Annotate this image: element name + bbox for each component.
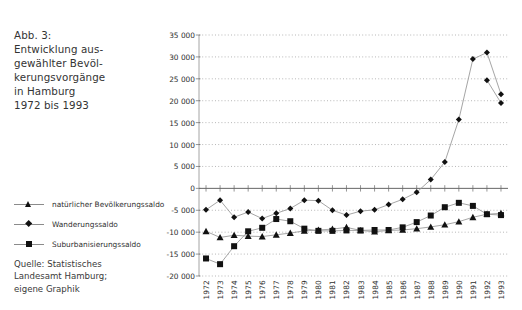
x-axis-tick-label: 1974 bbox=[230, 280, 239, 300]
source-line: Quelle: Statistisches bbox=[14, 258, 164, 270]
y-axis-tick-label: 35 000 bbox=[155, 31, 195, 40]
data-point-marker bbox=[456, 117, 462, 123]
y-axis-tick-label: 25 000 bbox=[155, 74, 195, 83]
y-axis-tick-label: 10 000 bbox=[155, 140, 195, 149]
data-point-marker bbox=[217, 261, 223, 267]
legend-item-suburbanisierungssaldo: Suburbanisierungssaldo bbox=[14, 234, 164, 254]
x-axis-tick-label: 1979 bbox=[300, 280, 309, 300]
legend-item-wanderungssaldo: Wanderungssaldo bbox=[14, 214, 164, 234]
caption-line: Abb. 3: bbox=[14, 28, 162, 42]
x-axis-tick-label: 1989 bbox=[441, 280, 450, 300]
x-axis-tick-label: 1984 bbox=[371, 280, 380, 300]
data-point-marker bbox=[301, 197, 307, 203]
caption-line: kerungsvorgänge bbox=[14, 70, 162, 84]
data-point-marker bbox=[259, 216, 265, 222]
series-line bbox=[487, 80, 501, 103]
legend-label: Suburbanisierungssaldo bbox=[52, 240, 141, 249]
x-axis-tick-label: 1983 bbox=[357, 280, 366, 300]
y-axis-tick-label: 20 000 bbox=[155, 96, 195, 105]
data-point-marker bbox=[386, 202, 392, 208]
y-axis-tick-label: 30 000 bbox=[155, 52, 195, 61]
data-point-marker bbox=[203, 228, 210, 234]
caption-line: gewählter Bevöl- bbox=[14, 56, 162, 70]
data-point-marker bbox=[343, 212, 349, 218]
x-axis-tick-label: 1975 bbox=[244, 280, 253, 300]
square-marker-icon bbox=[26, 241, 32, 247]
source-note: Quelle: Statistisches Landesamt Hamburg;… bbox=[14, 258, 164, 295]
data-point-marker bbox=[456, 200, 462, 206]
x-axis-tick-label: 1977 bbox=[272, 280, 281, 300]
data-point-marker bbox=[414, 219, 420, 225]
legend-swatch-line bbox=[14, 240, 44, 249]
x-axis-tick-label: 1993 bbox=[497, 280, 506, 300]
data-point-marker bbox=[442, 204, 448, 210]
line-chart: 35 00030 00025 00020 00015 00010 0005 00… bbox=[169, 22, 514, 307]
data-point-marker bbox=[301, 226, 307, 232]
legend-swatch-line bbox=[14, 220, 44, 229]
y-axis-tick-label: 0 bbox=[155, 184, 195, 193]
data-point-marker bbox=[273, 216, 279, 222]
data-point-marker bbox=[372, 207, 378, 213]
y-axis-tick-label: -5 000 bbox=[155, 206, 195, 215]
data-point-marker bbox=[329, 207, 335, 213]
x-axis-tick-label: 1988 bbox=[427, 280, 436, 300]
x-axis-tick-label: 1976 bbox=[258, 280, 267, 300]
data-point-marker bbox=[498, 91, 504, 97]
x-axis-tick-label: 1978 bbox=[286, 280, 295, 300]
x-axis-tick-label: 1992 bbox=[483, 280, 492, 300]
y-axis-tick-label: -20 000 bbox=[155, 272, 195, 281]
source-line: eigene Graphik bbox=[14, 283, 164, 295]
data-point-marker bbox=[315, 198, 321, 204]
y-axis-tick-label: 5 000 bbox=[155, 162, 195, 171]
chart-legend: natürlicher Bevölkerungssaldo Wanderungs… bbox=[14, 194, 164, 254]
plot-svg bbox=[199, 35, 508, 276]
left-info-column: Abb. 3: Entwicklung aus- gewählter Bevöl… bbox=[14, 0, 164, 310]
x-axis-tick-label: 1972 bbox=[202, 280, 211, 300]
data-point-marker bbox=[484, 211, 490, 217]
legend-label: natürlicher Bevölkerungssaldo bbox=[52, 200, 164, 209]
caption-line: Entwicklung aus- bbox=[14, 42, 162, 56]
figure-caption: Abb. 3: Entwicklung aus- gewählter Bevöl… bbox=[14, 28, 162, 113]
x-axis-tick-label: 1987 bbox=[413, 280, 422, 300]
caption-line: in Hamburg bbox=[14, 84, 162, 98]
legend-item-natuerlicher-bevoelkerungssaldo: natürlicher Bevölkerungssaldo bbox=[14, 194, 164, 214]
source-line: Landesamt Hamburg; bbox=[14, 270, 164, 282]
data-point-marker bbox=[245, 228, 251, 234]
x-axis-tick-label: 1985 bbox=[385, 280, 394, 300]
data-point-marker bbox=[273, 210, 279, 216]
data-point-marker bbox=[358, 227, 364, 233]
data-point-marker bbox=[203, 207, 209, 213]
x-axis-tick-label: 1982 bbox=[342, 280, 351, 300]
data-point-marker bbox=[498, 212, 504, 218]
data-point-marker bbox=[259, 225, 265, 231]
data-point-marker bbox=[358, 208, 364, 214]
series-line bbox=[206, 53, 501, 219]
legend-label: Wanderungssaldo bbox=[52, 220, 118, 229]
data-point-marker bbox=[315, 228, 321, 234]
data-point-marker bbox=[484, 77, 490, 83]
x-axis-tick-label: 1973 bbox=[216, 280, 225, 300]
data-point-marker bbox=[287, 218, 293, 224]
data-point-marker bbox=[231, 232, 238, 238]
x-axis-tick-label: 1981 bbox=[328, 280, 337, 300]
data-point-marker bbox=[400, 196, 406, 202]
caption-line: 1972 bis 1993 bbox=[14, 98, 162, 112]
y-axis-tick-labels: 35 00030 00025 00020 00015 00010 0005 00… bbox=[169, 35, 195, 276]
data-point-marker bbox=[428, 213, 434, 219]
plot-area bbox=[199, 35, 508, 276]
data-point-marker bbox=[203, 255, 209, 261]
y-axis-tick-label: 15 000 bbox=[155, 118, 195, 127]
x-axis-tick-label: 1986 bbox=[399, 280, 408, 300]
x-axis-tick-label: 1991 bbox=[469, 280, 478, 300]
x-axis-tick-label: 1980 bbox=[314, 280, 323, 300]
y-axis-tick-label: -15 000 bbox=[155, 250, 195, 259]
triangle-marker-icon bbox=[25, 201, 31, 207]
data-point-marker bbox=[372, 227, 378, 233]
data-point-marker bbox=[470, 203, 476, 209]
x-axis-tick-labels: 1972197319741975197619771978197919801981… bbox=[199, 280, 508, 310]
diamond-marker-icon bbox=[25, 220, 33, 228]
data-point-marker bbox=[343, 227, 349, 233]
data-point-marker bbox=[231, 243, 237, 249]
data-point-marker bbox=[400, 224, 406, 230]
x-axis-tick-label: 1990 bbox=[455, 280, 464, 300]
